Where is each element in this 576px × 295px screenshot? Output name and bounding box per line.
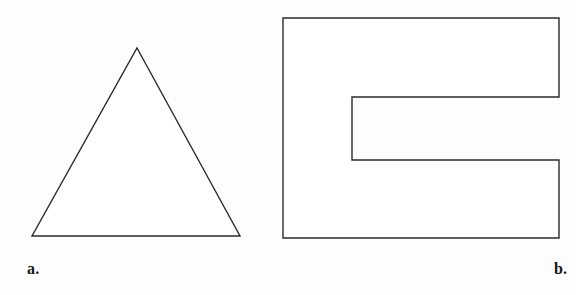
figure-panel-a: a. [0,0,288,295]
figure-label-a: a. [27,260,39,278]
figure-sheet: a. b. [0,0,576,295]
c-block-outline [283,18,559,238]
c-block-figure [272,0,576,295]
triangle-figure [0,0,288,295]
triangle-outline [32,48,240,236]
figure-panel-b: b. [272,0,576,295]
figure-label-b: b. [554,260,567,278]
